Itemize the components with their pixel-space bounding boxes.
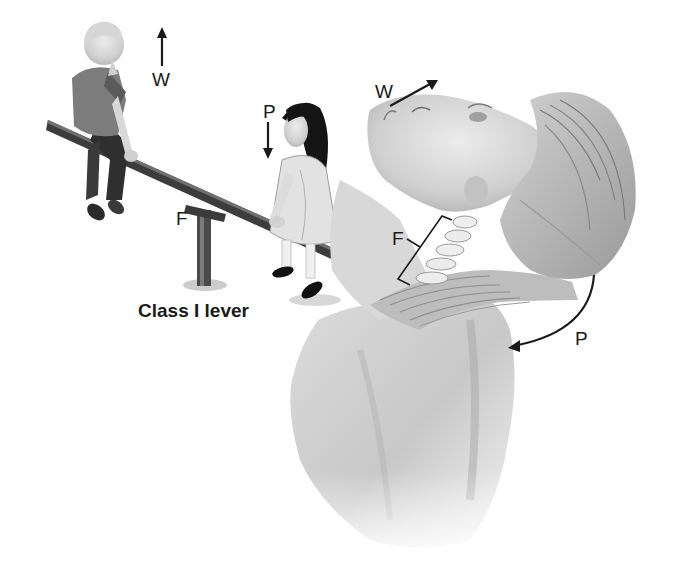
seesaw-weight-label: W [152,70,170,89]
lever-figure: W P F Class I lever W F P [0,0,675,565]
weight-arrow-up-icon [157,27,167,66]
girl-figure [269,103,338,302]
head-neck-scene [280,80,636,565]
figure-caption: Class I lever [138,301,249,320]
eye [469,112,487,122]
power-arrow-down-icon [263,122,273,159]
ground-shadow [289,294,341,306]
illustration [0,0,675,565]
ear [464,176,488,204]
seesaw-fulcrum-label: F [176,209,188,228]
seesaw-scene [46,22,342,306]
neck-weight-label: W [375,82,393,101]
hair [500,92,636,279]
neck-power-label: P [575,329,588,348]
seesaw-power-label: P [263,102,276,121]
neck-fulcrum-label: F [392,229,404,248]
boy-figure [72,22,138,224]
